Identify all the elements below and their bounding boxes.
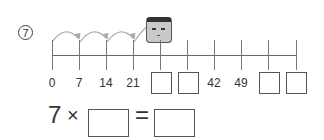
tick-label: 49 (234, 76, 247, 90)
answer-box-28[interactable] (151, 72, 172, 94)
tick-label: 42 (207, 76, 220, 90)
answer-box-56[interactable] (259, 72, 280, 94)
times-sign: × (67, 104, 79, 127)
tick-2 (106, 40, 107, 70)
jump-arcs-icon (50, 22, 160, 44)
product-input-box[interactable] (154, 109, 195, 137)
equals-sign: = (135, 101, 149, 129)
tick-1 (79, 40, 80, 70)
tick-label: 14 (99, 76, 112, 90)
tick-label: 7 (76, 76, 83, 90)
answer-box-63[interactable] (286, 72, 307, 94)
tick-label: 21 (126, 76, 139, 90)
tick-8 (268, 40, 269, 70)
number-line (52, 55, 297, 56)
tick-6 (214, 40, 215, 70)
tick-5 (187, 40, 188, 70)
question-number: 7 (18, 25, 33, 40)
tick-label: 0 (49, 76, 56, 90)
tick-9 (296, 40, 297, 70)
tick-0 (52, 40, 53, 70)
tick-7 (241, 40, 242, 70)
tick-4 (160, 40, 161, 70)
character-face-icon (146, 17, 172, 43)
answer-box-35[interactable] (178, 72, 199, 94)
equation-multiplicand: 7 (48, 101, 61, 129)
multiplier-input-box[interactable] (88, 109, 129, 137)
tick-3 (133, 40, 134, 70)
